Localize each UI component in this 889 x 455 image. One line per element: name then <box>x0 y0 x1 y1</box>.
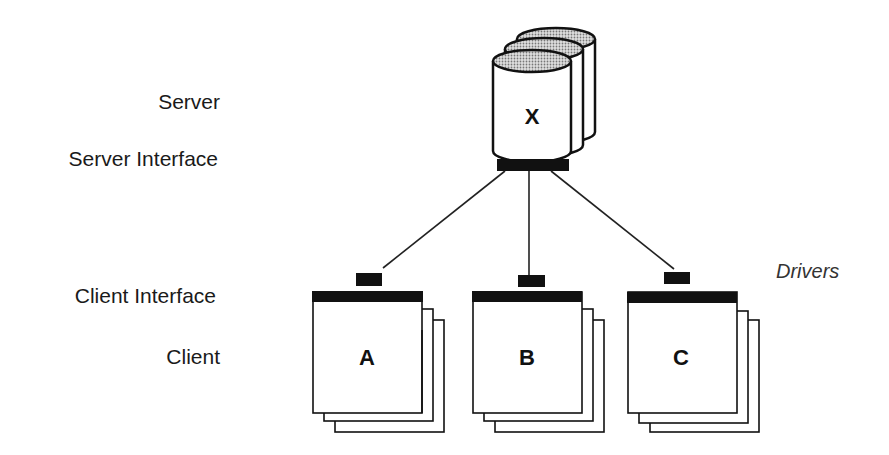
client-b-interface-bar <box>472 291 582 302</box>
connector-a <box>383 171 505 268</box>
client-a-driver <box>356 273 382 286</box>
client-c <box>628 292 759 432</box>
client-b-letter: B <box>519 345 535 370</box>
server-letter: X <box>525 104 540 129</box>
server-interface-bar <box>497 159 569 171</box>
connector-c <box>551 171 674 269</box>
architecture-diagram: X A B C <box>0 0 889 455</box>
server-database-icon <box>493 28 595 162</box>
client-a <box>313 292 444 432</box>
client-b-driver <box>518 275 545 287</box>
client-c-driver <box>664 272 690 284</box>
client-a-letter: A <box>359 345 375 370</box>
client-c-interface-bar <box>627 292 737 303</box>
connectors <box>383 171 674 276</box>
client-a-interface-bar <box>312 291 423 302</box>
client-c-letter: C <box>673 345 689 370</box>
client-b <box>473 292 604 432</box>
